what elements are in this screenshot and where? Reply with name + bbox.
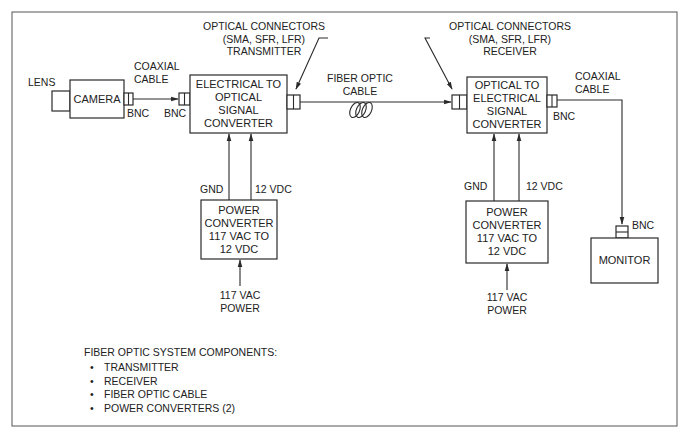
- vdc-rx-label: 12 VDC: [526, 180, 563, 193]
- legend-item: POWER CONVERTERS (2): [104, 402, 277, 416]
- legend-item: RECEIVER: [104, 375, 277, 389]
- optical-connector-rx: [452, 95, 467, 109]
- gnd-rx-label: GND: [464, 180, 487, 193]
- receiver-label: OPTICAL TO ELECTRICAL SIGNAL CONVERTER: [467, 77, 547, 133]
- vdc-tx-label: 12 VDC: [255, 183, 292, 196]
- optical-connectors-rx-label: OPTICAL CONNECTORS (SMA, SFR, LFR) RECEI…: [440, 20, 580, 58]
- legend-item: TRANSMITTER: [104, 361, 277, 375]
- ac-power-tx-label: 117 VAC POWER: [210, 289, 270, 314]
- coax-cable-right-label: COAXIAL CABLE: [575, 70, 621, 95]
- legend-item: FIBER OPTIC CABLE: [104, 388, 277, 402]
- bnc-connector-tx: [179, 93, 190, 105]
- gnd-tx-label: GND: [200, 183, 223, 196]
- legend-title: FIBER OPTIC SYSTEM COMPONENTS:: [84, 345, 277, 359]
- components-legend: FIBER OPTIC SYSTEM COMPONENTS: TRANSMITT…: [84, 345, 277, 415]
- bnc-monitor-label: BNC: [632, 219, 654, 232]
- optical-connector-tx: [287, 95, 300, 109]
- power-converter-rx-label: POWER CONVERTER 117 VAC TO 12 VDC: [466, 201, 548, 263]
- fiber-coil-icon: [348, 101, 375, 119]
- transmitter-label: ELECTRICAL TO OPTICAL SIGNAL CONVERTER: [190, 75, 287, 133]
- power-converter-tx-label: POWER CONVERTER 117 VAC TO 12 VDC: [201, 200, 277, 259]
- bnc-rx-label: BNC: [553, 110, 575, 123]
- monitor-label: MONITOR: [591, 238, 658, 283]
- optical-connectors-tx-label: OPTICAL CONNECTORS (SMA, SFR, LFR) TRANS…: [188, 20, 340, 58]
- fiber-optic-cable-label: FIBER OPTIC CABLE: [325, 72, 395, 97]
- camera-label: CAMERA: [70, 80, 124, 118]
- bnc-connector-rx: [547, 95, 557, 107]
- bnc-tx-label: BNC: [164, 107, 186, 120]
- bnc-connector-camera: [124, 93, 133, 105]
- lens-label: LENS: [28, 76, 55, 89]
- legend-list: TRANSMITTER RECEIVER FIBER OPTIC CABLE P…: [84, 361, 277, 415]
- ac-power-rx-label: 117 VAC POWER: [477, 291, 537, 316]
- lens-shape: [52, 91, 70, 111]
- coax-cable-left-label: COAXIAL CABLE: [134, 60, 180, 85]
- bnc-camera-label: BNC: [127, 107, 149, 120]
- bnc-connector-monitor: [616, 226, 628, 238]
